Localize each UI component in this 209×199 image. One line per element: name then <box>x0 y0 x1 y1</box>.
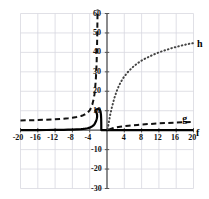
x-axis-tick-label: -8 <box>67 134 74 142</box>
chart-plot-svg <box>0 0 209 199</box>
x-axis-tick-label: 16 <box>171 134 179 142</box>
x-axis-tick-label: 4 <box>122 134 126 142</box>
curve-h <box>108 43 194 129</box>
y-axis-tick-label: 60 <box>93 10 101 18</box>
curve-g <box>109 122 194 130</box>
y-axis-tick-label: -30 <box>91 185 102 193</box>
chart-container: -20-16-12-8-448121620605040302010-10-20-… <box>0 0 209 199</box>
y-axis-tick-label: 40 <box>93 48 101 56</box>
curve-label-g: g <box>182 114 187 124</box>
y-axis-tick-label: -10 <box>91 146 102 154</box>
x-axis-tick-label: -20 <box>13 134 24 142</box>
y-axis-tick-label: 50 <box>93 29 101 37</box>
x-axis-tick-label: -4 <box>85 134 92 142</box>
axes <box>21 14 194 189</box>
curve-g <box>21 10 98 121</box>
y-axis-tick-label: -20 <box>91 165 102 173</box>
curve-label-h: h <box>197 39 203 49</box>
x-axis-tick-label: -16 <box>30 134 41 142</box>
y-axis-tick-label: 20 <box>93 87 101 95</box>
x-axis-tick-label: 12 <box>154 134 162 142</box>
x-axis-tick-label: 20 <box>188 134 196 142</box>
x-axis-tick-label: -12 <box>47 134 58 142</box>
y-axis-tick-label: 30 <box>93 68 101 76</box>
curve-label-f: f <box>196 128 199 138</box>
y-axis-tick-label: 10 <box>93 107 101 115</box>
x-axis-tick-label: 8 <box>139 134 143 142</box>
